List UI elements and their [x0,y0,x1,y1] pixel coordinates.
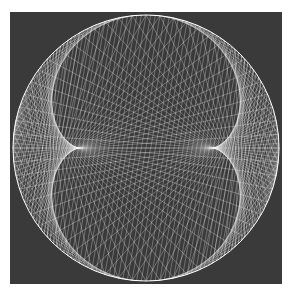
figure-frame [10,12,282,284]
chord-lines [13,15,279,281]
string-art-figure [10,12,282,284]
